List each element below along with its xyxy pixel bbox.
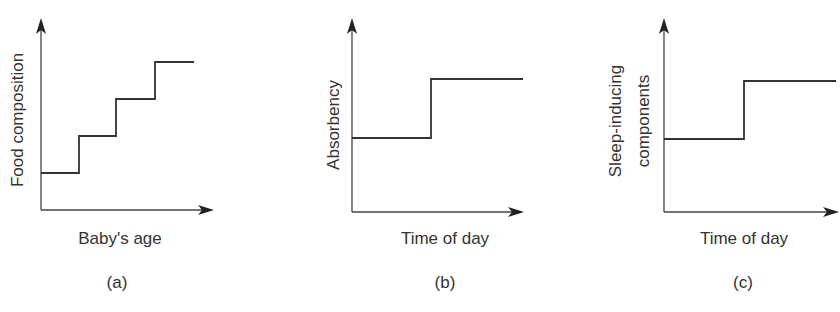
figure-canvas: Food composition Baby's age (a) Absorben… — [0, 0, 840, 312]
panel-caption: (b) — [435, 273, 456, 292]
panel-a: Food composition Baby's age (a) — [8, 18, 214, 292]
x-axis-label: Baby's age — [78, 229, 162, 248]
x-axis-label: Time of day — [401, 229, 490, 248]
step-line — [41, 62, 194, 173]
x-axis-label: Time of day — [700, 229, 789, 248]
step-line — [352, 79, 523, 138]
y-axis-label-line-1: Sleep-inducing — [606, 65, 625, 177]
y-axis-label: Absorbency — [324, 80, 343, 170]
panel-c: Sleep-inducing components Time of day (c… — [606, 18, 839, 292]
y-axis-label-line-2: components — [634, 75, 653, 168]
panel-caption: (a) — [107, 273, 128, 292]
y-axis-label: Food composition — [8, 53, 27, 187]
step-line — [664, 81, 836, 139]
panel-caption: (c) — [733, 273, 753, 292]
panel-b: Absorbency Time of day (b) — [324, 18, 524, 292]
